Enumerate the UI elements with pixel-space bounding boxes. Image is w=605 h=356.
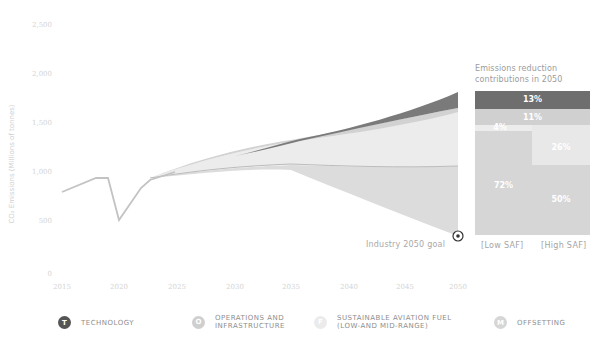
goal-label: Industry 2050 goal	[366, 240, 445, 249]
legend-item-technology: T TECHNOLOGY	[58, 316, 134, 329]
bar-offset-high-pct: 50%	[532, 195, 590, 204]
technology-icon: T	[58, 316, 71, 329]
saf-icon: F	[314, 316, 327, 329]
bar-saf-low-pct: 4%	[490, 123, 510, 132]
bar-saf-high-pct: 26%	[532, 143, 590, 152]
bar-technology-pct: 13%	[475, 95, 590, 104]
legend-item-offsetting: M OFFSETTING	[494, 316, 565, 329]
legend-item-operations: O OPERATIONS AND INFRASTRUCTURE	[192, 314, 285, 330]
legend-label-offsetting: OFFSETTING	[517, 319, 565, 327]
bar-title-line2: contributions in 2050	[475, 74, 563, 85]
legend-item-saf: F SUSTAINABLE AVIATION FUEL (LOW-AND MID…	[314, 314, 452, 330]
bar-category-low-saf: [Low SAF]	[481, 241, 524, 250]
offsetting-area	[150, 165, 458, 236]
offsetting-icon: M	[494, 316, 507, 329]
legend-label-operations: OPERATIONS AND INFRASTRUCTURE	[215, 314, 285, 330]
legend-label-saf: SUSTAINABLE AVIATION FUEL (LOW-AND MID-R…	[337, 314, 452, 330]
emissions-chart: CO₂ Emissions (Millions of tonnes) 2,500…	[0, 0, 605, 356]
bar-title-line1: Emissions reduction	[475, 63, 563, 74]
bar-category-high-saf: [High SAF]	[541, 241, 586, 250]
legend-label-technology: TECHNOLOGY	[81, 319, 134, 327]
bar-operations-pct: 11%	[475, 113, 590, 122]
bar-panel-title: Emissions reduction contributions in 205…	[475, 63, 563, 85]
goal-marker-icon	[453, 231, 463, 241]
historical-line	[62, 172, 175, 220]
operations-icon: O	[192, 316, 205, 329]
bar-offset-low-pct: 72%	[475, 181, 532, 190]
